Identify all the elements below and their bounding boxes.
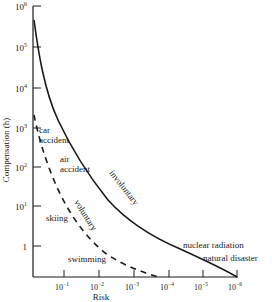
label-voluntary: voluntary (72, 198, 99, 233)
svg-text:1: 1 (23, 242, 28, 252)
svg-text:10−2: 10−2 (90, 281, 104, 292)
risk-compensation-chart: 106 105 104 103 102 101 1 10−1 10−2 10−3… (0, 0, 272, 302)
svg-text:104: 104 (15, 83, 27, 94)
label-natural-disaster: natural disaster (203, 253, 258, 263)
svg-text:10−1: 10−1 (55, 281, 69, 292)
svg-text:103: 103 (15, 123, 27, 134)
svg-text:10−4: 10−4 (160, 281, 174, 292)
svg-text:106: 106 (15, 1, 27, 12)
label-swimming: swimming (68, 254, 107, 264)
x-axis-label: Risk (93, 292, 110, 302)
x-tick-labels: 10−1 10−2 10−3 10−4 10−5 10−6 (55, 281, 242, 292)
label-air: air (60, 154, 70, 164)
label-skiing: skiing (46, 213, 69, 223)
y-tick-labels: 106 105 104 103 102 101 1 (15, 1, 27, 252)
label-involuntary: involuntary (107, 168, 141, 207)
label-car-accident: accident (39, 135, 69, 145)
x-ticks (64, 270, 237, 277)
svg-text:105: 105 (15, 42, 27, 53)
label-air-accident: accident (60, 164, 90, 174)
y-axis-label: Compensation (h) (1, 118, 11, 183)
involuntary-curve (34, 20, 237, 277)
label-nuclear-radiation: nuclear radiation (183, 240, 244, 250)
label-car: car (39, 125, 50, 135)
svg-text:102: 102 (15, 162, 27, 173)
svg-text:10−6: 10−6 (228, 281, 242, 292)
svg-text:101: 101 (15, 201, 27, 212)
svg-text:10−5: 10−5 (194, 281, 208, 292)
svg-text:10−3: 10−3 (125, 281, 139, 292)
